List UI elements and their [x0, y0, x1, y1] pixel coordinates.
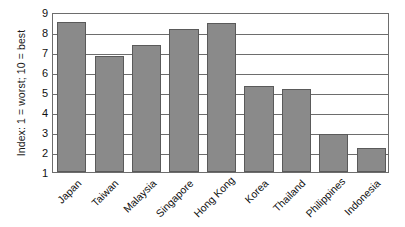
plot-area — [52, 13, 389, 173]
y-tick-label: 3 — [30, 126, 48, 140]
bar — [132, 45, 161, 172]
x-tick-label: Philippines — [303, 177, 345, 219]
x-axis-tick-labels: JapanTaiwanMalaysiaSingaporeHong KongKor… — [52, 173, 389, 227]
y-tick-label: 2 — [30, 146, 48, 160]
y-tick-label: 9 — [30, 6, 48, 20]
x-tick-label: Singapore — [153, 177, 195, 219]
y-tick-label: 5 — [30, 86, 48, 100]
x-tick-label: Thailand — [265, 177, 307, 219]
bar — [244, 86, 273, 172]
y-tick-label: 1 — [30, 166, 48, 180]
bar — [357, 148, 386, 172]
bars-layer — [53, 14, 388, 172]
y-tick-label: 7 — [30, 46, 48, 60]
bar — [319, 134, 348, 172]
bar — [169, 29, 198, 172]
y-axis-tick-labels: 987654321 — [30, 13, 48, 173]
bar-chart-figure: Index: 1 = worst; 10 = best 987654321 Ja… — [0, 0, 405, 227]
bar — [282, 89, 311, 172]
y-tick-label: 8 — [30, 26, 48, 40]
x-tick-label: Taiwan — [78, 177, 120, 219]
bar — [207, 23, 236, 172]
y-tick-label: 4 — [30, 106, 48, 120]
bar — [57, 22, 86, 172]
y-axis-title: Index: 1 = worst; 10 = best — [14, 13, 28, 173]
x-tick-label: Malaysia — [116, 177, 158, 219]
x-tick-label: Japan — [41, 177, 83, 219]
x-tick-label: Hong Kong — [191, 177, 233, 219]
y-tick-label: 6 — [30, 66, 48, 80]
bar — [95, 56, 124, 172]
